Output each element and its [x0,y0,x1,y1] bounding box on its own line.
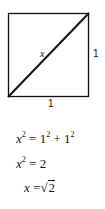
eq1-term1-exp: 2 [46,130,50,139]
side-right-label: 1 [93,48,99,59]
eq3-radicand: 2 [48,180,56,194]
eq2-rhs: 2 [40,156,47,171]
eq2-var-exp: 2 [22,155,26,164]
sqrt-icon: √ [40,180,47,195]
diagonal-label: x [39,48,45,59]
equation-1: x2 = 12 + 12 [16,131,74,145]
diagonal-line [8,13,89,97]
eq1-var-exp: 2 [22,130,26,139]
eq1-term2-exp: 2 [70,130,74,139]
eq2-equals: = [29,156,36,171]
square-diagram: x 1 1 [0,0,105,110]
eq1-equals: = [29,131,36,146]
side-bottom-label: 1 [48,98,54,109]
eq3-var: x [24,180,30,195]
equation-3: x =√2 [24,180,55,194]
equation-2: x2 = 2 [16,156,46,170]
eq1-plus: + [53,131,60,146]
